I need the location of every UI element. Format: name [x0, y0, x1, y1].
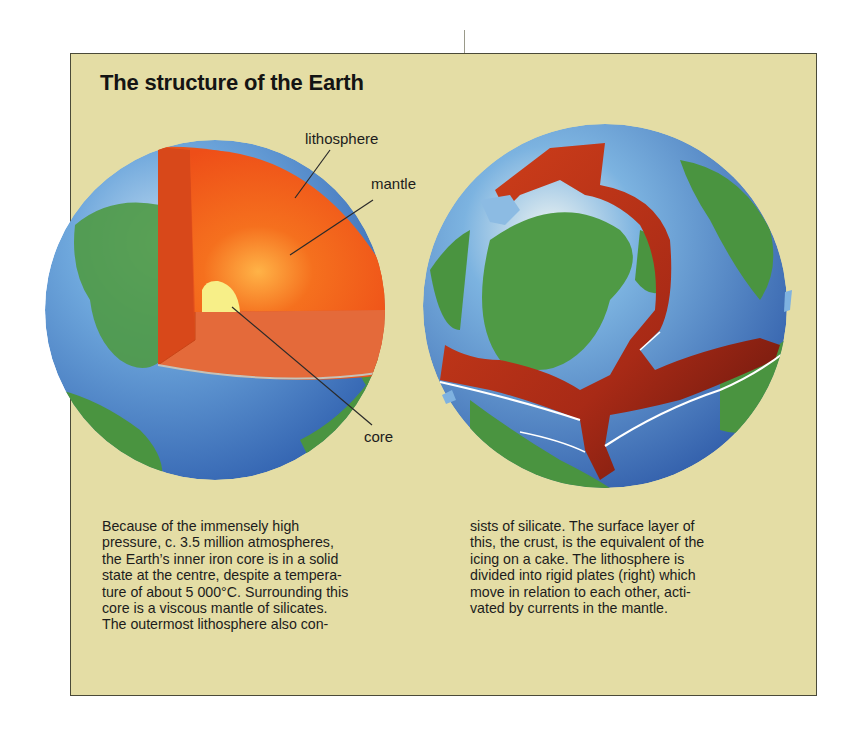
text-line: core is a viscous mantle of silicates. — [102, 600, 348, 616]
label-mantle: mantle — [371, 175, 416, 192]
text-line: pressure, c. 3.5 million atmospheres, — [102, 534, 348, 550]
text-line: state at the centre, despite a tempera- — [102, 567, 348, 583]
text-line: vated by currents in the mantle. — [470, 600, 704, 616]
text-column-right: sists of silicate. The surface layer of … — [470, 518, 704, 616]
text-line: icing on a cake. The lithosphere is — [470, 551, 704, 567]
text-line: The outermost lithosphere also con- — [102, 616, 348, 632]
plates-globe — [423, 124, 787, 495]
text-line: divided into rigid plates (right) which — [470, 567, 704, 583]
text-line: the Earth’s inner iron core is in a soli… — [102, 551, 348, 567]
label-core: core — [364, 428, 393, 445]
text-line: sists of silicate. The surface layer of — [470, 518, 704, 534]
text-line: this, the crust, is the equivalent of th… — [470, 534, 704, 550]
text-column-left: Because of the immensely high pressure, … — [102, 518, 348, 633]
cutaway-globe — [45, 140, 390, 490]
text-line: move in relation to each other, acti- — [470, 584, 704, 600]
label-lithosphere: lithosphere — [305, 130, 378, 147]
text-line: ture of about 5 000°C. Surrounding this — [102, 584, 348, 600]
text-line: Because of the immensely high — [102, 518, 348, 534]
